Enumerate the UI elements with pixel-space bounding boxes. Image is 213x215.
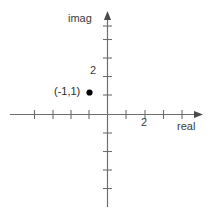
imag-axis-arrowhead [104,11,111,20]
real-axis-title: real [177,120,195,132]
axes-graphic [0,0,213,215]
imag-axis-title: imag [68,12,92,24]
data-point-label: (-1,1) [54,85,80,97]
real-axis-arrowhead [194,111,203,118]
real-axis-tick-label-2: 2 [141,116,147,128]
imag-axis-tick-label-2: 2 [90,64,96,76]
complex-plane-plot: imag real 2 2 (-1,1) [0,0,213,215]
data-point-marker [86,89,92,95]
